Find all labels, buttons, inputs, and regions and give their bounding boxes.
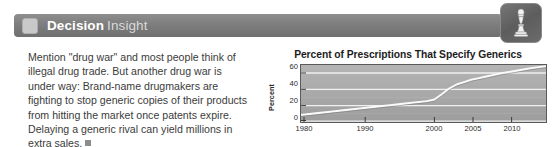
- chart-y-axis-label: Percent: [267, 84, 276, 111]
- x-tick-label: 2005: [465, 125, 482, 133]
- y-tick-label: 60: [290, 63, 298, 71]
- article-body: Mention "drug war" and most people think…: [28, 50, 250, 147]
- chess-piece-icon: [500, 3, 542, 43]
- y-tick-label: 0: [294, 114, 298, 122]
- chart-container: Percent of Prescriptions That Specify Ge…: [264, 49, 552, 141]
- panel-title: DecisionInsight: [47, 19, 148, 33]
- x-tick-label: 1980: [296, 125, 313, 133]
- decision-insight-panel: DecisionInsight Mention "drug war" and m…: [0, 0, 556, 147]
- panel-title-light: Insight: [107, 18, 147, 33]
- chart-plot-area: [300, 64, 547, 123]
- rounded-square-icon: [22, 18, 38, 34]
- article-body-text: Mention "drug war" and most people think…: [28, 51, 247, 147]
- panel-title-strong: Decision: [47, 18, 104, 33]
- x-tick-label: 1990: [357, 125, 374, 133]
- x-tick-label: 2010: [504, 125, 521, 133]
- y-tick-label: 40: [290, 80, 298, 88]
- y-tick-label: 20: [290, 97, 298, 105]
- chart-x-axis-ticks: 1980 1990 2000 2005 2010: [300, 125, 547, 137]
- end-of-article-marker: [85, 140, 91, 146]
- panel-header: DecisionInsight: [14, 14, 502, 37]
- chart-y-axis-ticks: 60 40 20 0: [276, 66, 298, 120]
- chart-title: Percent of Prescriptions That Specify Ge…: [264, 49, 552, 60]
- x-tick-label: 2000: [426, 125, 443, 133]
